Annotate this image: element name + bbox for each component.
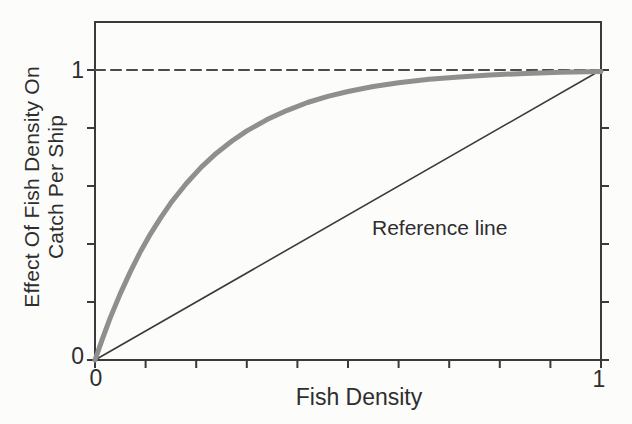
y-axis-title: Effect Of Fish Density On Catch Per Ship — [20, 66, 68, 308]
y-axis-title-line1: Effect Of Fish Density On — [20, 66, 44, 308]
chart-figure: Effect Of Fish Density On Catch Per Ship… — [0, 0, 632, 424]
reference-line-annotation: Reference line — [372, 216, 507, 240]
x-tick-label-0: 0 — [81, 367, 111, 390]
y-tick-label-0: 0 — [50, 343, 84, 369]
plot-canvas — [0, 0, 632, 424]
x-tick-label-1: 1 — [584, 368, 614, 391]
reference-line — [95, 70, 601, 360]
x-axis-title: Fish Density — [259, 384, 459, 411]
y-axis-title-line2: Catch Per Ship — [44, 66, 68, 308]
y-tick-label-1: 1 — [50, 57, 84, 83]
